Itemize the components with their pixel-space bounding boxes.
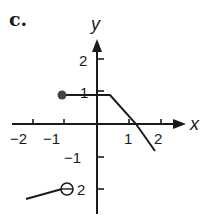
- x-tick-label-neg2: −2: [10, 130, 27, 147]
- closed-endpoint-dot: [58, 91, 67, 100]
- graph: −2 −1 1 2 2 1 −1 2 x y: [0, 0, 205, 220]
- y-tick-label-neg1: −1: [64, 149, 81, 166]
- y-tick-label-2: 2: [79, 52, 87, 69]
- y-tick-label-neg2: 2: [77, 181, 85, 198]
- y-tick-label-1: 1: [80, 84, 88, 101]
- lower-piece-line: [26, 189, 62, 199]
- x-tick-label-1: 1: [124, 130, 132, 147]
- y-axis-arrow-icon: [92, 39, 102, 52]
- x-tick-label-neg1: −1: [43, 130, 60, 147]
- x-axis-label: x: [189, 114, 200, 134]
- y-axis-label: y: [89, 14, 101, 34]
- x-tick-label-2: 2: [154, 130, 162, 147]
- x-axis-arrow-icon: [173, 119, 186, 129]
